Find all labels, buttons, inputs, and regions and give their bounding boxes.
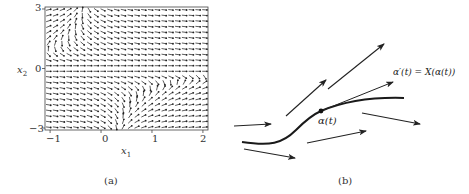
y-tick-neg3: −3 xyxy=(29,124,44,134)
tangent-label: α′(t) = X(α(t)) xyxy=(393,67,455,77)
vector-arrow xyxy=(244,149,295,158)
vector-arrow xyxy=(362,113,420,124)
caption-b: (b) xyxy=(338,175,352,186)
y-tick-0: 0 xyxy=(35,64,41,74)
x-axis-label-subscript: 1 xyxy=(127,151,131,159)
y-axis-label: x2 xyxy=(17,64,27,78)
vector-arrow xyxy=(328,44,384,89)
x-tick-1: 1 xyxy=(152,134,158,144)
x-axis-label: x1 xyxy=(121,145,131,159)
caption-a: (a) xyxy=(104,175,118,186)
integral-curve-diagram xyxy=(230,0,469,194)
y-tick-3: 3 xyxy=(35,3,41,13)
panel-a-vector-field-plot: 3 0 −3 −1 0 1 2 x2 x1 (a) xyxy=(0,0,230,194)
field-arrows xyxy=(46,7,208,131)
curve-point-dot xyxy=(319,109,324,114)
vector-arrow xyxy=(234,124,271,126)
vector-arrow xyxy=(307,131,366,143)
y-axis-label-subscript: 2 xyxy=(23,70,27,78)
x-tick-0: 0 xyxy=(102,134,108,144)
vector-field-plot-area xyxy=(0,0,230,194)
vector-arrows xyxy=(234,44,420,158)
x-tick-neg1: −1 xyxy=(46,134,61,144)
x-tick-2: 2 xyxy=(200,134,206,144)
point-label: α(t) xyxy=(318,115,337,126)
panel-b-integral-curve-diagram: α(t) α′(t) = X(α(t)) (b) xyxy=(230,0,469,194)
